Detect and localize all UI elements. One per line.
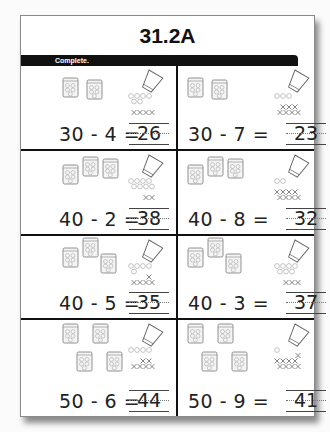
crossed-out-mark-icon bbox=[144, 280, 149, 285]
loose-bead-icon bbox=[135, 94, 140, 99]
loose-bead-icon bbox=[141, 179, 146, 184]
bag-of-ten-icon bbox=[83, 157, 98, 176]
loose-bead-icon bbox=[290, 269, 295, 274]
bag-of-ten-icon bbox=[188, 324, 203, 343]
bag-of-ten-icon bbox=[228, 159, 243, 178]
crossed-out-mark-icon bbox=[150, 280, 155, 285]
bag-of-ten-icon bbox=[63, 165, 78, 184]
bag-of-ten-icon bbox=[188, 248, 203, 267]
loose-bead-icon bbox=[150, 184, 155, 189]
problem-cell: 40 - 2 =38 bbox=[21, 151, 176, 234]
bag-of-ten-icon bbox=[208, 157, 223, 176]
loose-bead-icon bbox=[138, 184, 143, 189]
crossed-out-mark-icon bbox=[281, 105, 286, 110]
spilled-cup-icon bbox=[286, 240, 309, 264]
answer-box[interactable]: 38 bbox=[131, 206, 167, 230]
crossed-out-mark-icon bbox=[293, 190, 298, 195]
problem-cell: 30 - 7 =23 bbox=[178, 66, 330, 149]
crossed-out-mark-icon bbox=[138, 280, 143, 285]
loose-bead-icon bbox=[138, 99, 143, 104]
crossed-out-mark-icon bbox=[132, 280, 137, 285]
worksheet-page: 31.2A Complete. bbox=[20, 15, 315, 417]
crossed-out-mark-icon bbox=[132, 110, 137, 115]
loose-bead-icon bbox=[281, 94, 286, 99]
bag-of-ten-icon bbox=[212, 80, 227, 99]
crossed-out-mark-icon bbox=[275, 359, 280, 364]
bag-of-ten-icon bbox=[93, 324, 108, 343]
crossed-out-mark-icon bbox=[144, 110, 149, 115]
bag-of-ten-icon bbox=[202, 352, 217, 371]
answer-box[interactable]: 32 bbox=[288, 206, 324, 230]
loose-bead-icon bbox=[287, 264, 292, 269]
crossed-out-mark-icon bbox=[290, 364, 295, 369]
loose-bead-icon bbox=[275, 94, 280, 99]
crossed-out-mark-icon bbox=[281, 190, 286, 195]
crossed-out-mark-icon bbox=[138, 110, 143, 115]
bag-of-ten-icon bbox=[188, 165, 203, 184]
spilled-cup-icon bbox=[140, 155, 163, 179]
problem-cell: 40 - 5 =35 bbox=[21, 236, 176, 318]
bead-pile bbox=[275, 94, 301, 115]
answer-box[interactable]: 35 bbox=[131, 290, 167, 314]
crossed-out-mark-icon bbox=[296, 110, 301, 115]
loose-bead-icon bbox=[141, 264, 146, 269]
crossed-out-mark-icon bbox=[150, 195, 155, 200]
problem-cell: 30 - 4 =26 bbox=[21, 66, 176, 149]
answer-box[interactable]: 41 bbox=[288, 388, 324, 412]
loose-bead-icon bbox=[284, 269, 289, 274]
crossed-out-mark-icon bbox=[147, 275, 152, 280]
answer-box[interactable]: 26 bbox=[131, 121, 167, 145]
loose-bead-icon bbox=[278, 269, 283, 274]
answer-box[interactable]: 23 bbox=[288, 121, 324, 145]
problem-grid: 30 - 4 =26 bbox=[21, 66, 314, 416]
loose-bead-icon bbox=[129, 348, 134, 353]
worksheet-title: 31.2A bbox=[21, 24, 314, 48]
bag-of-ten-icon bbox=[63, 78, 78, 97]
bag-of-ten-icon bbox=[103, 159, 118, 178]
equation-expression: 40 - 3 = bbox=[188, 292, 269, 314]
crossed-out-mark-icon bbox=[290, 110, 295, 115]
answer-box[interactable]: 37 bbox=[288, 290, 324, 314]
answer-box[interactable]: 44 bbox=[131, 388, 167, 412]
loose-bead-icon bbox=[132, 184, 137, 189]
bag-of-ten-icon bbox=[101, 254, 116, 273]
crossed-out-mark-icon bbox=[296, 195, 301, 200]
bag-of-ten-icon bbox=[232, 352, 247, 371]
loose-bead-icon bbox=[129, 94, 134, 99]
bag-of-ten-icon bbox=[63, 248, 78, 267]
instruction-text: Complete. bbox=[55, 55, 89, 66]
crossed-out-mark-icon bbox=[287, 190, 292, 195]
spilled-cup-icon bbox=[286, 155, 309, 179]
crossed-out-mark-icon bbox=[284, 364, 289, 369]
loose-bead-icon bbox=[135, 179, 140, 184]
crossed-out-mark-icon bbox=[278, 364, 283, 369]
bead-pile bbox=[275, 179, 301, 200]
equation-expression: 40 - 5 = bbox=[59, 292, 140, 314]
crossed-out-mark-icon bbox=[150, 364, 155, 369]
crossed-out-mark-icon bbox=[275, 190, 280, 195]
spilled-cup-icon bbox=[140, 324, 163, 348]
crossed-out-mark-icon bbox=[278, 195, 283, 200]
loose-bead-icon bbox=[275, 264, 280, 269]
instruction-bar: Complete. bbox=[21, 55, 298, 66]
loose-bead-icon bbox=[147, 179, 152, 184]
bag-of-ten-icon bbox=[188, 78, 203, 97]
bag-of-ten-icon bbox=[83, 238, 98, 257]
crossed-out-mark-icon bbox=[141, 359, 146, 364]
bead-pile bbox=[129, 179, 155, 200]
crossed-out-mark-icon bbox=[290, 280, 295, 285]
crossed-out-mark-icon bbox=[293, 359, 298, 364]
crossed-out-mark-icon bbox=[144, 195, 149, 200]
bead-pile bbox=[129, 264, 155, 285]
loose-bead-icon bbox=[147, 348, 152, 353]
crossed-out-mark-icon bbox=[296, 364, 301, 369]
loose-bead-icon bbox=[147, 94, 152, 99]
loose-bead-icon bbox=[129, 179, 134, 184]
bead-pile bbox=[129, 94, 155, 115]
crossed-out-mark-icon bbox=[278, 110, 283, 115]
crossed-out-mark-icon bbox=[284, 280, 289, 285]
loose-bead-icon bbox=[144, 184, 149, 189]
bag-of-ten-icon bbox=[218, 324, 233, 343]
equation-expression: 40 - 2 = bbox=[59, 208, 140, 230]
loose-bead-icon bbox=[275, 179, 280, 184]
